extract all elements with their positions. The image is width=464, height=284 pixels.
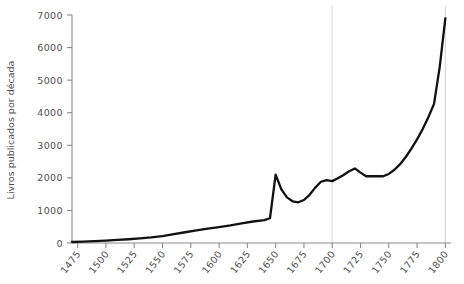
x-axis-tick-label: 1550: [143, 248, 168, 275]
y-axis-tick-label: 3000: [37, 140, 63, 151]
x-axis-tick-label: 1475: [58, 248, 83, 275]
x-axis-tick-label: 1575: [171, 248, 196, 275]
line-chart: 01000200030004000500060007000 1475150015…: [0, 0, 464, 284]
y-axis-tick-label: 6000: [37, 42, 63, 53]
y-axis-tick-label: 0: [57, 238, 63, 249]
x-axis-tick-label: 1800: [426, 248, 451, 275]
chart-container: 01000200030004000500060007000 1475150015…: [0, 0, 464, 284]
y-axis-tick-label: 5000: [37, 75, 63, 86]
vertical-gridlines: [332, 6, 445, 243]
x-axis-tick-label: 1675: [284, 248, 309, 275]
y-axis-tick-label: 2000: [37, 172, 63, 183]
series-line: [72, 18, 445, 242]
y-axis: 01000200030004000500060007000: [37, 10, 72, 249]
y-axis-title: Livros publicados por década: [5, 61, 16, 200]
data-series: [72, 18, 445, 242]
x-axis-tick-label: 1725: [341, 248, 366, 275]
x-axis-tick-label: 1600: [200, 248, 225, 275]
x-axis-tick-label: 1750: [369, 248, 394, 275]
x-axis-tick-label: 1625: [228, 248, 253, 275]
x-axis: 1475150015251550157516001625165016751700…: [58, 243, 451, 276]
x-axis-tick-label: 1525: [115, 248, 140, 275]
y-axis-tick-label: 1000: [37, 205, 63, 216]
x-axis-tick-label: 1775: [398, 248, 423, 275]
y-axis-tick-label: 7000: [37, 10, 63, 21]
x-axis-tick-label: 1700: [313, 248, 338, 275]
x-axis-tick-label: 1650: [256, 248, 281, 275]
y-axis-tick-label: 4000: [37, 107, 63, 118]
x-axis-tick-label: 1500: [86, 248, 111, 275]
